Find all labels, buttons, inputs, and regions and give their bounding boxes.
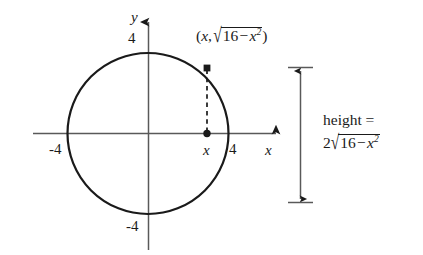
x-axis-label: x (265, 143, 272, 158)
radical-sign-icon: √ (331, 131, 340, 151)
x-axis-tick-minus-4: -4 (49, 142, 62, 157)
radicand-lead: 16 (340, 134, 356, 151)
point-marker-on-axis (203, 130, 210, 137)
y-axis-label: y (131, 10, 138, 25)
height-coefficient: 2 (323, 134, 331, 151)
radicand-var: x (367, 134, 374, 151)
radical-sign-icon: √ (213, 25, 222, 45)
radicand-minus: − (240, 27, 249, 44)
radicand-lead: 16 (223, 27, 239, 44)
height-equals-text: height = (323, 112, 380, 128)
radicand-minus: − (357, 134, 366, 151)
y-axis-tick-4: 4 (128, 31, 136, 46)
comma: , (208, 27, 212, 44)
point-coordinate-label: (x, √16 − x2) (196, 27, 267, 44)
paren-close: ) (262, 27, 267, 44)
height-expression: 2√16 − x2 (323, 134, 380, 151)
point-radical: √16 − x2 (213, 27, 262, 44)
radicand-exponent: 2 (374, 132, 379, 143)
point-radicand: 16 − x2 (221, 27, 263, 44)
radicand-exponent: 2 (256, 26, 261, 37)
point-marker-on-circle (204, 65, 211, 72)
y-axis-tick-minus-4: -4 (126, 219, 139, 234)
height-radical: √16 − x2 (331, 134, 380, 151)
height-annotation-label: height = 2√16 − x2 (323, 112, 380, 150)
x-axis-tick-4: 4 (229, 142, 237, 157)
height-radicand: 16 − x2 (338, 134, 380, 151)
x-axis-variable-tick: x (203, 143, 210, 158)
